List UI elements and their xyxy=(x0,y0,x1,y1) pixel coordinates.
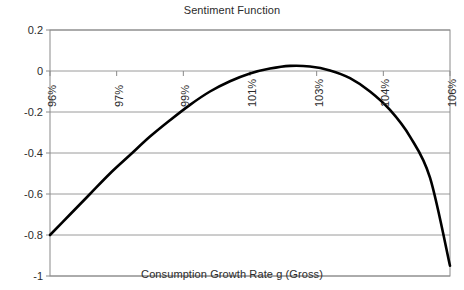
y-tickmarks-group xyxy=(46,30,50,276)
y-tick-label: -0.2 xyxy=(24,106,43,118)
y-tick-label: 0 xyxy=(37,65,43,77)
x-tick-label: 103% xyxy=(313,79,325,107)
x-tick-label: 99% xyxy=(179,85,191,107)
x-tick-label: 104% xyxy=(379,79,391,107)
y-tick-label: -0.8 xyxy=(24,229,43,241)
plot-area xyxy=(0,0,464,290)
x-tick-label: 106% xyxy=(446,79,458,107)
x-axis-label: Consumption Growth Rate g (Gross) xyxy=(0,268,464,280)
x-tick-label: 96% xyxy=(46,85,58,107)
gridlines-group xyxy=(50,30,450,276)
chart-figure: Sentiment Function 0.20-0.2-0.4-0.6-0.8-… xyxy=(0,0,464,290)
y-tick-label: -0.4 xyxy=(24,147,43,159)
y-tick-label: -0.6 xyxy=(24,188,43,200)
x-tick-label: 97% xyxy=(113,85,125,107)
x-tick-label: 101% xyxy=(246,79,258,107)
y-tick-label: 0.2 xyxy=(28,24,43,36)
